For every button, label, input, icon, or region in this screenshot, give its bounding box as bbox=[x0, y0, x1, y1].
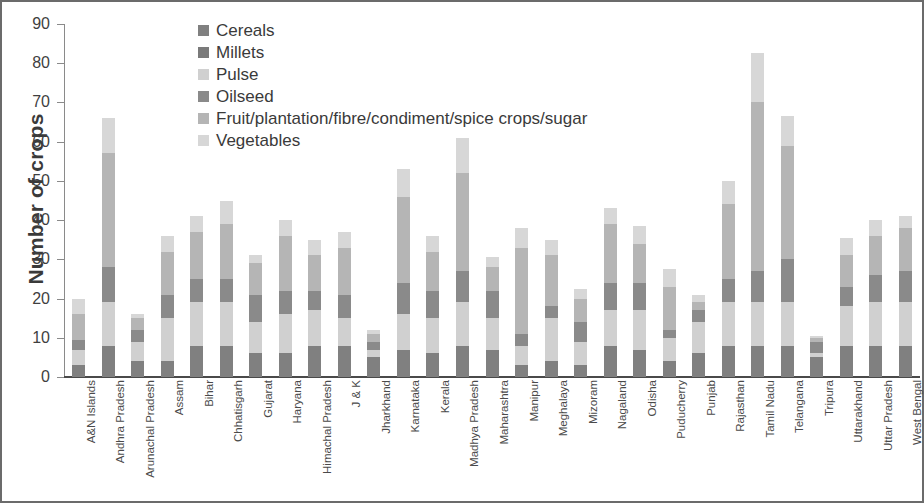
chart-frame: Number of crops 0102030405060708090 A&N … bbox=[0, 0, 924, 503]
bar-segment bbox=[426, 318, 439, 353]
bar-column[interactable] bbox=[722, 181, 735, 377]
bar-column[interactable] bbox=[840, 238, 853, 377]
bar-column[interactable] bbox=[338, 232, 351, 377]
bar-segment bbox=[397, 283, 410, 314]
bar-column[interactable] bbox=[456, 138, 469, 377]
bar-segment bbox=[426, 252, 439, 291]
bar-column[interactable] bbox=[397, 169, 410, 377]
bar-column[interactable] bbox=[367, 330, 380, 377]
x-axis-label: Andhra Pradesh bbox=[113, 380, 127, 503]
y-axis-tick-mark bbox=[57, 63, 64, 64]
bar-column[interactable] bbox=[72, 299, 85, 377]
bar-segment bbox=[604, 346, 617, 377]
bar-segment bbox=[456, 302, 469, 345]
bar-column[interactable] bbox=[190, 216, 203, 377]
bar-column[interactable] bbox=[899, 216, 912, 377]
y-axis-tick-mark bbox=[57, 102, 64, 103]
x-axis-label: Tripura bbox=[822, 380, 836, 503]
legend-item[interactable]: Fruit/plantation/fibre/condiment/spice c… bbox=[198, 108, 587, 129]
legend-label: Pulse bbox=[216, 64, 259, 85]
bar-segment bbox=[869, 346, 882, 377]
bar-column[interactable] bbox=[604, 208, 617, 377]
bar-segment bbox=[663, 361, 676, 377]
bar-segment bbox=[279, 291, 292, 315]
bar-column[interactable] bbox=[515, 228, 528, 377]
bar-segment bbox=[604, 208, 617, 224]
bar-segment bbox=[308, 240, 321, 256]
bar-segment bbox=[781, 116, 794, 145]
bar-segment bbox=[279, 220, 292, 236]
bar-segment bbox=[426, 353, 439, 377]
bar-segment bbox=[869, 275, 882, 302]
x-axis-label: Arunachal Pradesh bbox=[143, 380, 157, 503]
bar-column[interactable] bbox=[663, 269, 676, 377]
legend-swatch-icon bbox=[198, 135, 209, 146]
y-axis-tick-label: 30 bbox=[32, 249, 50, 269]
bar-segment bbox=[397, 197, 410, 283]
bar-segment bbox=[308, 291, 321, 311]
bar-column[interactable] bbox=[781, 116, 794, 377]
bar-column[interactable] bbox=[131, 314, 144, 377]
bar-column[interactable] bbox=[633, 226, 646, 377]
legend-item[interactable]: Cereals bbox=[198, 20, 587, 41]
bar-segment bbox=[840, 238, 853, 256]
x-axis-label: A&N Islands bbox=[84, 380, 98, 503]
y-axis-tick-mark bbox=[57, 377, 64, 378]
x-axis-label: Mizoram bbox=[586, 380, 600, 503]
x-axis-label: Jharkhand bbox=[379, 380, 393, 503]
bar-column[interactable] bbox=[545, 240, 558, 377]
bar-column[interactable] bbox=[692, 295, 705, 377]
bar-column[interactable] bbox=[161, 236, 174, 377]
legend-item[interactable]: Oilseed bbox=[198, 86, 587, 107]
bar-column[interactable] bbox=[810, 336, 823, 377]
legend-swatch-icon bbox=[198, 69, 209, 80]
bar-segment bbox=[190, 216, 203, 232]
x-axis-label: Punjab bbox=[704, 380, 718, 503]
bar-segment bbox=[751, 271, 764, 302]
bar-segment bbox=[102, 118, 115, 153]
legend-label: Oilseed bbox=[216, 86, 274, 107]
bar-segment bbox=[72, 340, 85, 350]
x-axis-label: Telangana bbox=[792, 380, 806, 503]
bar-column[interactable] bbox=[279, 220, 292, 377]
x-axis-label: Rajasthan bbox=[733, 380, 747, 503]
legend-item[interactable]: Millets bbox=[198, 42, 587, 63]
legend-label: Vegetables bbox=[216, 130, 300, 151]
chart-legend: CerealsMilletsPulseOilseedFruit/plantati… bbox=[198, 20, 587, 152]
bar-segment bbox=[781, 346, 794, 377]
bar-segment bbox=[574, 365, 587, 377]
legend-item[interactable]: Pulse bbox=[198, 64, 587, 85]
bar-segment bbox=[397, 169, 410, 196]
bar-segment bbox=[131, 342, 144, 362]
bar-column[interactable] bbox=[486, 257, 499, 377]
x-axis-label: Assam bbox=[172, 380, 186, 503]
bar-segment bbox=[869, 302, 882, 345]
bar-column[interactable] bbox=[249, 255, 262, 377]
bar-column[interactable] bbox=[574, 289, 587, 377]
bar-segment bbox=[338, 346, 351, 377]
bar-column[interactable] bbox=[102, 118, 115, 377]
bar-segment bbox=[781, 259, 794, 302]
bar-segment bbox=[722, 302, 735, 345]
bar-segment bbox=[131, 361, 144, 377]
bar-segment bbox=[220, 346, 233, 377]
legend-item[interactable]: Vegetables bbox=[198, 130, 587, 151]
bar-column[interactable] bbox=[869, 220, 882, 377]
bar-segment bbox=[899, 346, 912, 377]
bar-column[interactable] bbox=[426, 236, 439, 377]
bar-segment bbox=[604, 224, 617, 283]
bar-segment bbox=[663, 287, 676, 330]
bar-segment bbox=[781, 146, 794, 260]
bar-column[interactable] bbox=[308, 240, 321, 377]
bar-segment bbox=[899, 302, 912, 345]
bar-column[interactable] bbox=[220, 201, 233, 377]
bar-column[interactable] bbox=[751, 53, 764, 377]
bar-segment bbox=[220, 302, 233, 345]
bar-segment bbox=[367, 342, 380, 350]
bar-segment bbox=[545, 361, 558, 377]
bar-segment bbox=[899, 228, 912, 271]
legend-label: Fruit/plantation/fibre/condiment/spice c… bbox=[216, 108, 587, 129]
bar-segment bbox=[486, 350, 499, 377]
bar-segment bbox=[72, 350, 85, 366]
x-axis-label: Meghalaya bbox=[556, 380, 570, 503]
